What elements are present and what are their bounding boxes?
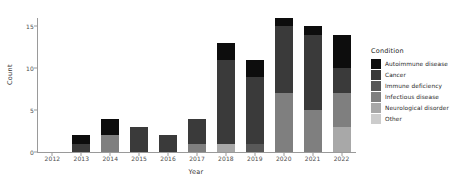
- y-tick-mark: [34, 68, 37, 69]
- bar-segment[interactable]: [72, 135, 90, 143]
- bar-segment[interactable]: [217, 144, 235, 152]
- plot-area: [38, 18, 356, 152]
- legend-label: Neurological disorder: [385, 105, 449, 111]
- y-tick-mark: [34, 26, 37, 27]
- bar-segment[interactable]: [333, 93, 351, 127]
- legend-entries: Autoimmune diseaseCancerImmune deficienc…: [371, 58, 463, 124]
- legend-swatch-icon: [371, 103, 381, 113]
- legend-swatch-icon: [371, 114, 381, 124]
- bar-segment[interactable]: [101, 135, 119, 152]
- x-tick-mark: [81, 153, 82, 156]
- bar-segment[interactable]: [275, 93, 293, 152]
- x-tick-mark: [197, 153, 198, 156]
- bar-2020[interactable]: [275, 18, 293, 152]
- bar-segment[interactable]: [333, 35, 351, 69]
- bar-2017[interactable]: [188, 119, 206, 153]
- x-axis-title: Year: [189, 168, 204, 176]
- x-tick-mark: [168, 153, 169, 156]
- x-tick-mark: [52, 153, 53, 156]
- x-tick-label: 2018: [218, 155, 234, 162]
- bar-2019[interactable]: [246, 60, 264, 152]
- bar-segment[interactable]: [217, 43, 235, 60]
- legend-item[interactable]: Immune deficiency: [371, 80, 463, 91]
- bar-segment[interactable]: [101, 119, 119, 136]
- legend-label: Autoimmune disease: [385, 61, 448, 67]
- x-tick-mark: [110, 153, 111, 156]
- bar-segment[interactable]: [333, 68, 351, 93]
- x-tick-label: 2013: [74, 155, 90, 162]
- x-tick-label: 2014: [102, 155, 118, 162]
- bar-2021[interactable]: [304, 26, 322, 152]
- bar-segment[interactable]: [275, 18, 293, 26]
- x-tick-label: 2021: [305, 155, 321, 162]
- x-tick-mark: [312, 153, 313, 156]
- bar-segment[interactable]: [188, 119, 206, 144]
- legend: Condition Autoimmune diseaseCancerImmune…: [371, 47, 463, 124]
- bar-segment[interactable]: [333, 127, 351, 152]
- x-tick-mark: [283, 153, 284, 156]
- legend-item[interactable]: Other: [371, 113, 463, 124]
- x-tick-label: 2012: [45, 155, 61, 162]
- y-tick-mark: [34, 152, 37, 153]
- bar-segment[interactable]: [188, 144, 206, 152]
- legend-swatch-icon: [371, 70, 381, 80]
- x-tick-label: 2017: [189, 155, 205, 162]
- bar-segment[interactable]: [217, 60, 235, 144]
- legend-item[interactable]: Autoimmune disease: [371, 58, 463, 69]
- bar-segment[interactable]: [159, 135, 177, 152]
- x-tick-mark: [254, 153, 255, 156]
- x-tick-mark: [225, 153, 226, 156]
- bar-2022[interactable]: [333, 35, 351, 152]
- x-tick-mark: [139, 153, 140, 156]
- bar-segment[interactable]: [246, 60, 264, 77]
- x-tick-label: 2016: [160, 155, 176, 162]
- bar-2016[interactable]: [159, 135, 177, 152]
- stacked-bar-chart: Count Year 051015 2012201320142015201620…: [0, 0, 464, 187]
- bar-segment[interactable]: [275, 26, 293, 93]
- x-tick-label: 2019: [247, 155, 263, 162]
- legend-swatch-icon: [371, 81, 381, 91]
- legend-label: Infectious disease: [385, 94, 439, 100]
- bar-segment[interactable]: [304, 110, 322, 152]
- bar-segment[interactable]: [246, 77, 264, 144]
- bar-segment[interactable]: [246, 144, 264, 152]
- bar-2013[interactable]: [72, 135, 90, 152]
- legend-title: Condition: [371, 47, 463, 55]
- legend-item[interactable]: Cancer: [371, 69, 463, 80]
- bar-segment[interactable]: [72, 144, 90, 152]
- bar-2014[interactable]: [101, 119, 119, 153]
- legend-label: Cancer: [385, 72, 406, 78]
- bar-segment[interactable]: [304, 26, 322, 34]
- legend-item[interactable]: Infectious disease: [371, 91, 463, 102]
- x-tick-label: 2022: [334, 155, 350, 162]
- legend-label: Immune deficiency: [385, 83, 442, 89]
- x-tick-label: 2015: [131, 155, 147, 162]
- y-tick-mark: [34, 110, 37, 111]
- bar-segment[interactable]: [130, 127, 148, 152]
- legend-swatch-icon: [371, 59, 381, 69]
- legend-item[interactable]: Neurological disorder: [371, 102, 463, 113]
- x-tick-label: 2020: [276, 155, 292, 162]
- bar-segment[interactable]: [304, 35, 322, 110]
- bar-2018[interactable]: [217, 43, 235, 152]
- legend-swatch-icon: [371, 92, 381, 102]
- x-tick-mark: [341, 153, 342, 156]
- bar-2015[interactable]: [130, 127, 148, 152]
- legend-label: Other: [385, 116, 402, 122]
